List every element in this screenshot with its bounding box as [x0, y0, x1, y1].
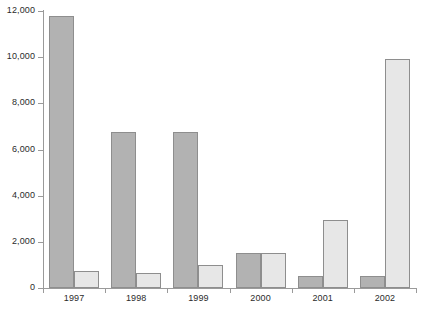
y-axis-tick-label: 2,000 [12, 237, 35, 246]
x-axis-tick [230, 289, 231, 293]
bar-1999-series-1 [173, 132, 198, 288]
x-axis-label-1997: 1997 [43, 294, 105, 303]
bar-chart: 02,0004,0006,0008,00010,00012,000 199719… [0, 0, 423, 313]
bar-1998-series-1 [111, 132, 136, 288]
x-axis-tick [292, 289, 293, 293]
y-axis-tick-label-wrap: 10,000 [0, 52, 35, 62]
y-axis-tick-label: 6,000 [12, 145, 35, 154]
y-axis-tick-label: 10,000 [7, 52, 35, 61]
y-axis-tick-label: 8,000 [12, 98, 35, 107]
y-axis-tick-label-wrap: 4,000 [0, 191, 35, 201]
x-axis-label-2001: 2001 [292, 294, 354, 303]
y-axis-tick-label-wrap: 2,000 [0, 237, 35, 247]
y-axis-tick-label-wrap: 8,000 [0, 98, 35, 108]
y-axis-tick-label-wrap: 12,000 [0, 6, 35, 16]
bar-2002-series-1 [360, 276, 385, 288]
x-axis-tick [167, 289, 168, 293]
x-axis-label-1998: 1998 [105, 294, 167, 303]
x-axis-tick [105, 289, 106, 293]
bar-2000-series-1 [236, 253, 261, 288]
bar-2001-series-2 [323, 220, 348, 288]
plot-area [43, 11, 416, 288]
x-axis-label-2002: 2002 [354, 294, 416, 303]
bar-2002-series-2 [385, 59, 410, 288]
y-axis-tick-label: 4,000 [12, 191, 35, 200]
bar-1998-series-2 [136, 273, 161, 288]
bar-2000-series-2 [261, 253, 286, 288]
bar-1997-series-1 [49, 16, 74, 288]
bar-1999-series-2 [198, 265, 223, 288]
y-axis-tick-label: 12,000 [7, 6, 35, 15]
y-axis-tick-label: 0 [30, 283, 35, 292]
y-axis-tick-label-wrap: 0 [0, 283, 35, 293]
x-axis-tick [354, 289, 355, 293]
x-axis-tick [416, 289, 417, 293]
x-axis-label-1999: 1999 [167, 294, 229, 303]
bar-1997-series-2 [74, 271, 99, 288]
x-axis-label-2000: 2000 [230, 294, 292, 303]
bar-2001-series-1 [298, 276, 323, 288]
y-axis-tick-label-wrap: 6,000 [0, 145, 35, 155]
x-axis-tick [43, 289, 44, 293]
